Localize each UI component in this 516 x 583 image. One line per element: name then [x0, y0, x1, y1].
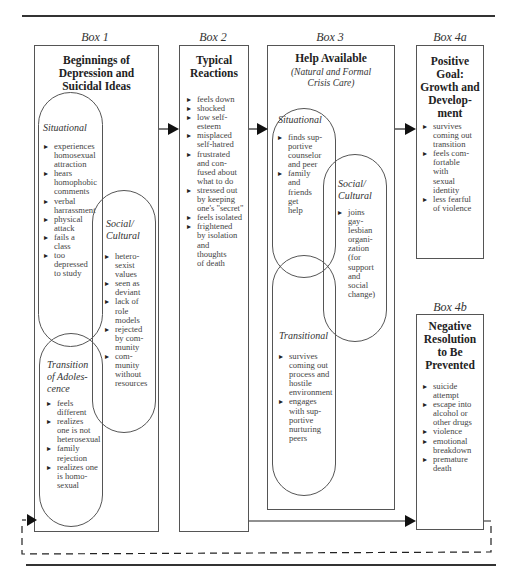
arrowhead-icon	[405, 123, 416, 135]
arrowhead-icon	[405, 515, 416, 527]
feedback-loop-dashed	[22, 521, 491, 554]
connector-arrows	[0, 0, 516, 583]
arrowhead-icon	[27, 514, 37, 526]
arrowhead-icon	[168, 123, 179, 135]
arrowhead-icon	[257, 123, 268, 135]
